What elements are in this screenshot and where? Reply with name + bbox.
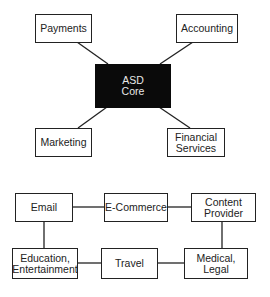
node-education-entertainment: Education, Entertainment [12, 248, 78, 279]
node-payments: Payments [35, 14, 92, 43]
node-label: Email [31, 202, 57, 213]
node-marketing: Marketing [35, 128, 92, 157]
node-label: Education, Entertainment [12, 253, 77, 275]
node-label: E-Commerce [105, 202, 167, 213]
node-travel: Travel [101, 248, 158, 279]
node-medical-legal: Medical, Legal [184, 248, 248, 279]
edge-core-financial-services [159, 107, 190, 128]
node-label: Medical, Legal [196, 253, 235, 275]
node-e-commerce: E-Commerce [104, 193, 168, 222]
node-label: Content Provider [204, 197, 243, 219]
node-email: Email [15, 193, 73, 222]
edge-payments-core [77, 42, 108, 64]
node-label: ASD Core [122, 75, 145, 97]
node-accounting: Accounting [176, 14, 238, 43]
node-financial-services: Financial Services [167, 128, 225, 157]
node-label: Accounting [181, 23, 233, 34]
node-label: Travel [115, 258, 144, 269]
node-asd-core: ASD Core [95, 64, 171, 108]
edge-core-marketing [78, 107, 107, 128]
node-label: Financial Services [175, 132, 217, 154]
node-label: Marketing [40, 137, 86, 148]
edge-accounting-core [160, 42, 193, 64]
node-label: Payments [40, 23, 87, 34]
node-content-provider: Content Provider [191, 193, 256, 222]
